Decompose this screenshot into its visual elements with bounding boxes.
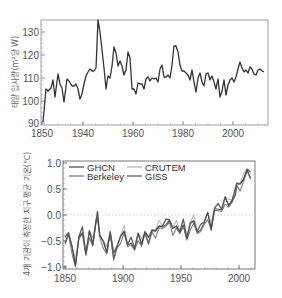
- top-chart-y-axis: 13012011010090: [22, 25, 45, 129]
- legend-label-giss: GISS: [145, 171, 168, 182]
- legend-label-berkeley: Berkeley: [87, 171, 124, 182]
- global-temperature-chart: 1.00.50.0−0.5−1.0 1850190019502000 GHCN …: [22, 152, 255, 284]
- y-tick-label: 110: [23, 73, 39, 84]
- y-tick-label: −1.0: [41, 262, 61, 273]
- figure: 13012011010090 18501940196019802000 태양 입…: [0, 0, 282, 298]
- x-tick-label: 2000: [228, 273, 251, 284]
- series-line-giss: [65, 169, 251, 265]
- top-chart-y-axis-label: 태양 입사량(m²당 W): [10, 36, 20, 108]
- top-chart-frame: [41, 20, 268, 125]
- x-tick-label: 1900: [112, 273, 135, 284]
- x-tick-label: 1980: [172, 128, 195, 139]
- y-tick-label: 0.5: [47, 184, 61, 195]
- x-tick-label: 1960: [122, 128, 145, 139]
- solar-irradiance-line: [43, 20, 264, 122]
- x-tick-label: 1850: [31, 128, 54, 139]
- top-chart-x-axis: 18501940196019802000: [31, 121, 258, 139]
- y-tick-label: 120: [22, 50, 39, 61]
- y-tick-label: 90: [28, 118, 40, 129]
- x-tick-label: 1850: [54, 273, 77, 284]
- y-tick-label: 1.0: [47, 158, 61, 169]
- series-line-ghcn: [65, 170, 251, 266]
- y-tick-label: 130: [22, 27, 39, 38]
- x-tick-label: 2000: [222, 128, 245, 139]
- legend: GHCN CRUTEM Berkeley GISS: [69, 162, 186, 182]
- bottom-chart-x-axis: 1850190019502000: [54, 265, 251, 284]
- y-tick-label: −0.5: [41, 236, 61, 247]
- bottom-chart-y-axis-label: 4개 기관이 측정한 지구 평균 기온(℃): [22, 152, 32, 276]
- solar-irradiance-chart: 13012011010090 18501940196019802000 태양 입…: [10, 20, 268, 139]
- x-tick-label: 1940: [72, 128, 95, 139]
- series-line-berkeley: [65, 171, 251, 267]
- x-tick-label: 1950: [170, 273, 193, 284]
- y-tick-label: 100: [22, 96, 39, 107]
- y-tick-label: 0.0: [47, 210, 61, 221]
- temperature-series: [65, 169, 251, 267]
